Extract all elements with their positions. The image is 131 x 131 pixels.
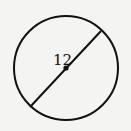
diameter-label: 12	[53, 51, 72, 69]
diagram-canvas: 12	[0, 0, 131, 131]
circle-diagram: 12	[0, 0, 131, 131]
